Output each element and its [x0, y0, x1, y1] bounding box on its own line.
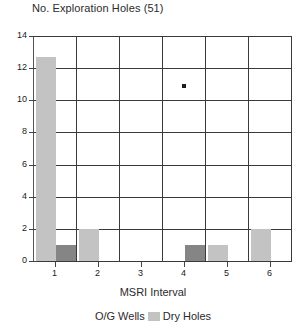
legend-item[interactable]: O/G Wells	[95, 310, 145, 322]
bar-dry-holes	[251, 229, 271, 261]
chart-legend: O/G WellsDry Holes	[0, 310, 306, 322]
legend-color-swatch	[148, 312, 160, 321]
bar-dry-holes	[79, 229, 99, 261]
legend-item-label: Dry Holes	[163, 310, 211, 322]
chart-title: No. Exploration Holes (51)	[32, 2, 164, 14]
bar-dry-holes	[208, 245, 228, 261]
chart-container: No. Exploration Holes (51) 02468101214 1…	[0, 0, 306, 328]
bar-og-wells	[56, 245, 76, 261]
legend-item-label: O/G Wells	[95, 310, 145, 322]
y-tick-label-wrap: 12	[0, 63, 27, 73]
plot-area	[33, 36, 291, 261]
y-tick-label: 12	[17, 63, 27, 72]
y-tick-label: 8	[22, 127, 27, 136]
gridline-vertical	[162, 36, 163, 261]
y-tick-label: 10	[17, 95, 27, 104]
x-axis-line	[33, 261, 292, 262]
y-tick-label-wrap: 2	[0, 224, 27, 234]
y-tick-label-wrap: 8	[0, 127, 27, 137]
gridline-vertical	[119, 36, 120, 261]
y-tick-label-wrap: 4	[0, 192, 27, 202]
gridline-vertical	[205, 36, 206, 261]
y-tick-label-wrap: 10	[0, 95, 27, 105]
x-tick-label: 2	[91, 268, 105, 278]
x-axis-title: MSRI Interval	[0, 286, 306, 298]
y-tick-label: 2	[22, 224, 27, 233]
x-tick-mark	[98, 262, 99, 267]
y-tick-label: 14	[17, 31, 27, 40]
y-tick-label-wrap: 14	[0, 31, 27, 41]
x-tick-mark	[141, 262, 142, 267]
y-tick-label-wrap: 0	[0, 256, 27, 266]
x-tick-label: 3	[134, 268, 148, 278]
bar-dry-holes	[36, 57, 56, 261]
y-tick-label: 4	[22, 192, 27, 201]
x-tick-label: 5	[220, 268, 234, 278]
bar-og-wells	[185, 245, 205, 261]
x-tick-label: 4	[177, 268, 191, 278]
x-tick-mark	[55, 262, 56, 267]
gridline-vertical	[291, 36, 292, 261]
y-tick-label: 6	[22, 160, 27, 169]
x-tick-mark	[184, 262, 185, 267]
x-tick-mark	[270, 262, 271, 267]
y-tick-label-wrap: 6	[0, 160, 27, 170]
gridline-vertical	[248, 36, 249, 261]
x-tick-label: 1	[48, 268, 62, 278]
x-tick-mark	[227, 262, 228, 267]
legend-item[interactable]: Dry Holes	[145, 310, 211, 322]
data-point-marker	[182, 84, 186, 88]
x-tick-label: 6	[263, 268, 277, 278]
y-tick-label: 0	[22, 256, 27, 265]
y-tick-mark	[29, 261, 37, 262]
gridline-vertical	[76, 36, 77, 261]
